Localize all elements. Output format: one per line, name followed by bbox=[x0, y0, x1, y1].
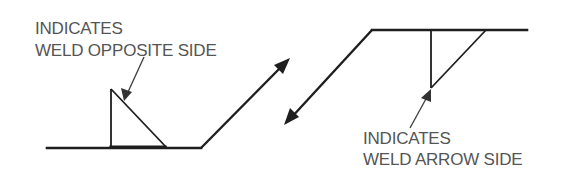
opposite-side-pointer-arrow-icon bbox=[121, 57, 144, 101]
opposite-side-leader-line bbox=[201, 64, 284, 148]
arrow-side-label-line1: INDICATES bbox=[363, 129, 451, 148]
weld-symbol-diagram: INDICATES WELD OPPOSITE SIDE bbox=[0, 0, 567, 177]
arrow-side-label-line2: WELD ARROW SIDE bbox=[363, 150, 522, 169]
fillet-weld-triangle-icon bbox=[111, 89, 167, 148]
fillet-weld-triangle-icon bbox=[431, 30, 486, 88]
opposite-side-label-line1: INDICATES bbox=[35, 19, 123, 38]
opposite-side-weld-symbol: INDICATES WELD OPPOSITE SIDE bbox=[35, 19, 290, 148]
arrow-side-weld-symbol: INDICATES WELD ARROW SIDE bbox=[284, 30, 527, 169]
opposite-side-label-line2: WELD OPPOSITE SIDE bbox=[35, 41, 217, 60]
arrow-side-leader-line bbox=[290, 30, 372, 119]
arrow-side-pointer-arrow-icon bbox=[410, 89, 431, 128]
